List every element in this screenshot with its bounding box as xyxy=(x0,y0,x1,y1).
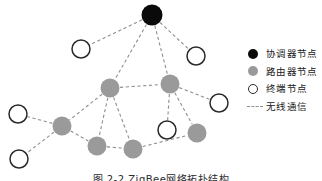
end-node xyxy=(9,105,27,123)
router-node xyxy=(88,137,107,156)
end-node xyxy=(210,94,228,112)
node-layer xyxy=(9,5,228,169)
legend-label-coordinator: 协调器节点 xyxy=(266,49,318,59)
figure-caption: 图 2-2 ZigBee网络拓扑结构 xyxy=(0,171,322,181)
wireless-link xyxy=(175,93,192,124)
router-node xyxy=(188,124,207,143)
wireless-link xyxy=(160,22,189,49)
wireless-link xyxy=(71,131,89,141)
wireless-link xyxy=(155,26,168,75)
wireless-link xyxy=(179,88,210,100)
legend: 协调器节点 路由器节点 终端节点 无线通信 xyxy=(246,45,322,115)
wireless-link xyxy=(90,20,143,45)
wireless-link xyxy=(114,97,130,139)
wireless-link xyxy=(115,25,147,80)
legend-item-wireless-link: 无线通信 xyxy=(246,98,322,116)
end-node xyxy=(10,150,28,168)
wireless-link xyxy=(27,132,55,153)
router-node-icon xyxy=(246,63,266,81)
legend-label-router: 路由器节点 xyxy=(266,67,318,77)
legend-item-coordinator: 协调器节点 xyxy=(246,45,322,63)
end-node-icon xyxy=(246,80,266,98)
dashed-line-icon xyxy=(246,98,266,116)
router-node xyxy=(124,140,143,159)
wireless-link xyxy=(99,98,108,136)
end-node xyxy=(187,47,205,65)
end-node xyxy=(72,40,90,58)
coordinator-node xyxy=(142,5,163,26)
router-node xyxy=(53,117,72,136)
wireless-link xyxy=(70,94,102,120)
legend-label-end-node: 终端节点 xyxy=(266,84,307,94)
router-node xyxy=(101,79,120,98)
coordinator-node-icon xyxy=(246,45,266,63)
figure-container: 协调器节点 路由器节点 终端节点 无线通信 图 2-2 ZigBee网络拓扑结构 xyxy=(0,0,322,181)
wireless-link xyxy=(120,85,160,88)
legend-item-end-node: 终端节点 xyxy=(246,80,322,98)
wireless-link xyxy=(27,116,52,123)
end-node xyxy=(158,121,176,139)
legend-label-wireless-link: 无线通信 xyxy=(266,102,307,112)
router-node xyxy=(161,75,180,94)
legend-item-router: 路由器节点 xyxy=(246,63,322,81)
wireless-link xyxy=(107,147,123,148)
wireless-link xyxy=(168,94,170,121)
